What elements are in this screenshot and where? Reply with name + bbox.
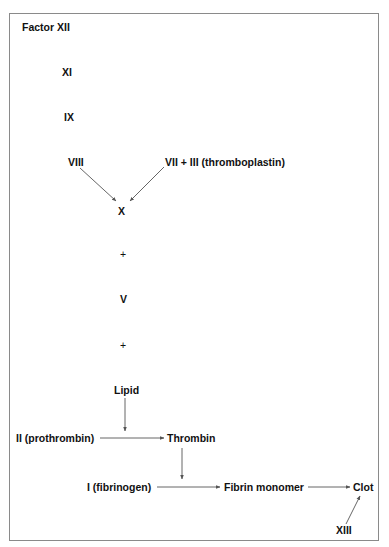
arrows-layer xyxy=(0,0,389,547)
arrow-viii-to-x xyxy=(80,168,116,201)
arrow-xiii-to-clot xyxy=(346,496,360,524)
arrow-vii-to-x xyxy=(130,167,164,201)
